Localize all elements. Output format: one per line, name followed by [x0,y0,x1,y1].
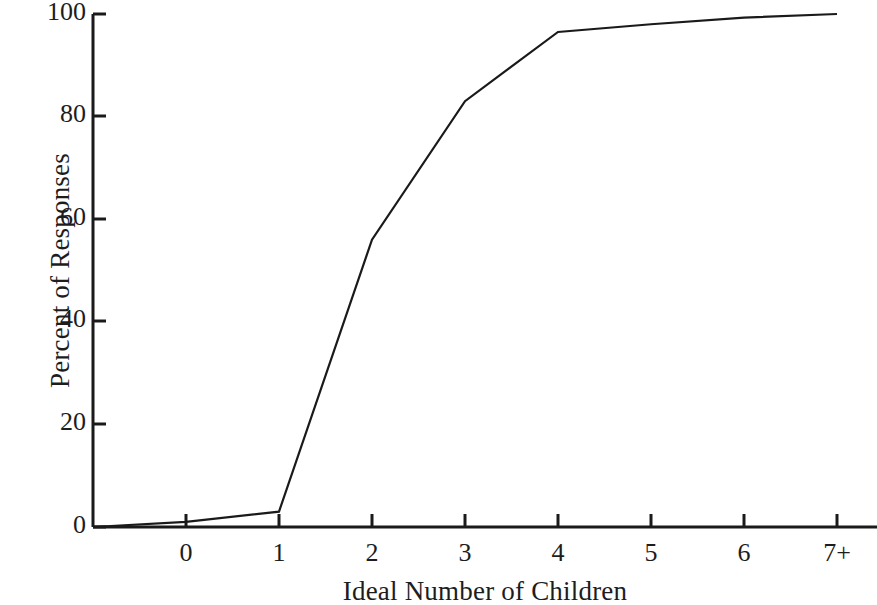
x-axis-ticks [186,514,837,527]
chart-figure: Percent of Responses Ideal Number of Chi… [0,0,877,605]
chart-axes [93,14,877,527]
chart-plot-area [0,0,877,605]
data-series-line [93,14,837,527]
y-axis-ticks [93,14,106,527]
